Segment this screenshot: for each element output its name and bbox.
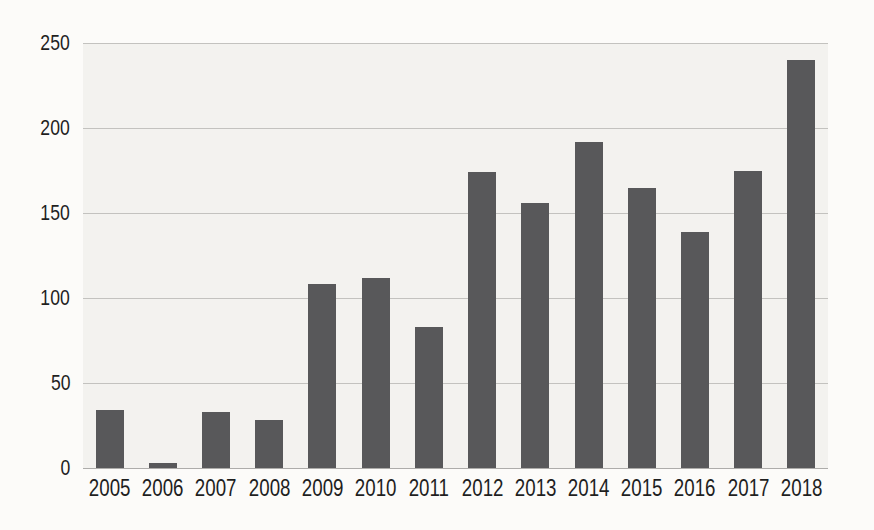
x-tick-text: 2006 [142,475,184,501]
bar-2012 [468,172,496,468]
x-tick-label-2018: 2018 [775,475,828,501]
x-tick-text: 2005 [89,475,131,501]
x-tick-label-2007: 2007 [189,475,242,501]
x-tick-label-2010: 2010 [349,475,402,501]
x-tick-text: 2013 [515,475,557,501]
y-tick-label-0: 0 [0,456,70,480]
x-tick-label-2006: 2006 [136,475,189,501]
bar-2008 [255,420,283,468]
x-tick-text: 2012 [461,475,503,501]
gridline-100 [83,298,828,299]
x-tick-label-2013: 2013 [509,475,562,501]
x-tick-text: 2011 [409,475,449,501]
y-tick-text: 0 [60,456,70,480]
y-tick-text: 200 [41,116,70,140]
x-tick-label-2017: 2017 [722,475,775,501]
y-tick-label-250: 250 [0,31,70,55]
bar-2017 [734,171,762,469]
y-tick-label-100: 100 [0,286,70,310]
bar-2009 [308,284,336,468]
bar-2015 [628,188,656,469]
x-tick-text: 2015 [621,475,663,501]
bar-2013 [521,203,549,468]
x-axis-baseline [83,468,828,469]
y-tick-label-150: 150 [0,201,70,225]
bar-2016 [681,232,709,468]
x-tick-text: 2010 [355,475,397,501]
gridline-200 [83,128,828,129]
bar-2006 [149,463,177,468]
x-tick-text: 2017 [727,475,769,501]
y-tick-text: 250 [41,31,70,55]
x-tick-label-2016: 2016 [668,475,721,501]
bar-2018 [787,60,815,468]
x-tick-label-2011: 2011 [402,475,455,501]
y-tick-label-200: 200 [0,116,70,140]
x-tick-label-2005: 2005 [83,475,136,501]
x-tick-text: 2009 [302,475,344,501]
x-tick-text: 2016 [674,475,716,501]
x-tick-text: 2018 [781,475,823,501]
gridline-250 [83,43,828,44]
x-tick-label-2008: 2008 [243,475,296,501]
x-tick-text: 2008 [249,475,291,501]
y-tick-label-50: 50 [0,371,70,395]
x-tick-label-2015: 2015 [615,475,668,501]
gridline-150 [83,213,828,214]
y-tick-text: 100 [41,286,70,310]
bar-2014 [575,142,603,468]
bar-chart-figure: 050100150200250 200520062007200820092010… [0,0,874,530]
x-tick-text: 2014 [568,475,610,501]
x-tick-label-2012: 2012 [456,475,509,501]
plot-area [83,43,828,468]
y-tick-text: 50 [50,371,70,395]
x-tick-label-2014: 2014 [562,475,615,501]
bar-2010 [362,278,390,468]
bar-2005 [96,410,124,468]
gridline-50 [83,383,828,384]
y-tick-text: 150 [41,201,70,225]
bar-2011 [415,327,443,468]
x-tick-text: 2007 [195,475,237,501]
bar-2007 [202,412,230,468]
x-tick-label-2009: 2009 [296,475,349,501]
